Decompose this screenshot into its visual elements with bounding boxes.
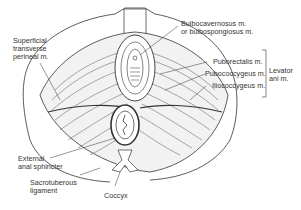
label-sacrotuberous-ligament: Sacrotuberous ligament (30, 179, 77, 195)
label-levator-ani: Levator ani m. (269, 67, 293, 83)
label-line: or bulbospongiosus m. (181, 28, 253, 36)
label-pubococcygeus: Pubococcygeus m. (205, 70, 266, 78)
label-bulbocavernosus: Bulbocavernosus m. or bulbospongiosus m. (181, 20, 253, 36)
label-puborectalis: Puborectalis m. (213, 58, 263, 66)
label-line: anal sphincter (18, 163, 63, 171)
label-external-anal-sphincter: External anal sphincter (18, 155, 63, 171)
label-line: ani m. (269, 75, 293, 83)
label-line: perineal m. (13, 53, 49, 61)
label-iliococcygeus: Iliococcygeus m. (212, 82, 265, 90)
label-line: ligament (30, 187, 77, 195)
pelvic-floor-diagram: Superficial transverse perineal m. Bulbo… (0, 0, 301, 210)
label-coccyx: Coccyx (104, 192, 128, 200)
label-superficial-transverse-perineal: Superficial transverse perineal m. (13, 37, 49, 61)
